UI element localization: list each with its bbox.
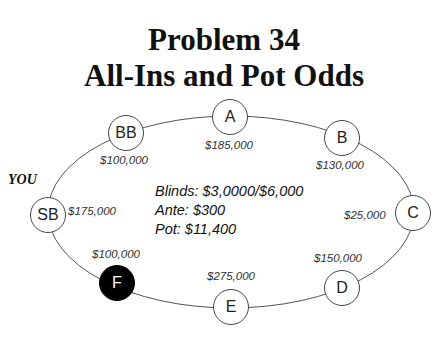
seat-sb: SB <box>30 197 66 233</box>
seat-d-stack: $150,000 <box>314 252 362 264</box>
you-label: YOU <box>8 172 37 188</box>
seat-label: BB <box>115 124 136 142</box>
seat-bb-stack: $100,000 <box>100 154 148 166</box>
seat-e-stack: $275,000 <box>207 270 255 282</box>
seat-c-stack: $25,000 <box>344 209 386 221</box>
seat-label: A <box>225 108 236 126</box>
seat-label: E <box>226 298 237 316</box>
seat-label: B <box>337 129 348 147</box>
seat-e: E <box>213 289 249 325</box>
seat-label: SB <box>37 206 58 224</box>
blinds-text: Blinds: $3,0000/$6,000 <box>155 182 303 201</box>
seat-d: D <box>324 270 360 306</box>
seat-c: C <box>395 195 431 231</box>
seat-label: F <box>112 274 122 292</box>
seat-label: D <box>336 279 348 297</box>
game-info: Blinds: $3,0000/$6,000 Ante: $300 Pot: $… <box>155 182 303 239</box>
seat-bb: BB <box>108 115 144 151</box>
pot-text: Pot: $11,400 <box>155 220 303 239</box>
seat-b: B <box>324 120 360 156</box>
ante-text: Ante: $300 <box>155 201 303 220</box>
seat-f-highlighted: F <box>99 265 135 301</box>
seat-a: A <box>212 99 248 135</box>
seat-f-stack: $100,000 <box>92 248 140 260</box>
seat-sb-stack: $175,000 <box>68 205 116 217</box>
seat-a-stack: $185,000 <box>205 139 253 151</box>
seat-b-stack: $130,000 <box>316 159 364 171</box>
seat-label: C <box>407 204 419 222</box>
